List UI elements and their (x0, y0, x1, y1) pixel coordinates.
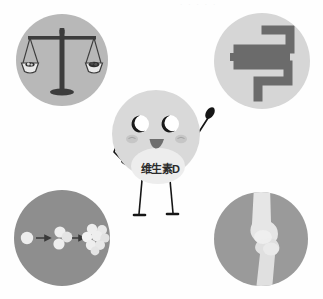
tile-knee-joint[interactable] (214, 192, 308, 286)
legs (134, 180, 178, 215)
left-cheek (126, 135, 138, 143)
tile-balance-scale[interactable] (16, 14, 108, 106)
vitamin-d-mascot[interactable] (104, 84, 216, 229)
right-cheek (175, 135, 187, 143)
tile-molecule-growth[interactable] (14, 190, 110, 286)
tile-intestine[interactable] (214, 13, 310, 109)
balance-scale-icon (16, 14, 108, 106)
vitamin-label: 维生素D (128, 163, 192, 176)
watermark-text: · · · · · (180, 1, 295, 10)
knee-joint-bone-icon (214, 192, 308, 286)
illustration-canvas: · · · · · (0, 0, 323, 299)
molecule-growth-icon (14, 190, 110, 286)
intestine-icon (214, 13, 310, 109)
